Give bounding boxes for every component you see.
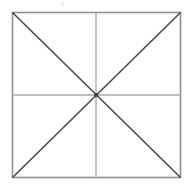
geometry-diagram: [0, 0, 193, 188]
faint-smudge: [61, 2, 64, 6]
figure-canvas: [0, 0, 193, 188]
center-vertex: [94, 93, 98, 97]
